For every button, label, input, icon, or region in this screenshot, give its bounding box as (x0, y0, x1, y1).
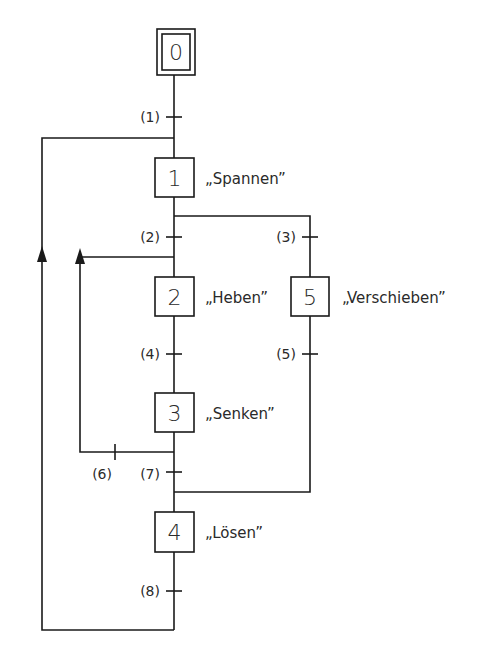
transition-1: (1) (140, 109, 182, 125)
step-label: „Spannen” (205, 170, 286, 188)
transition-5: (5) (276, 346, 318, 362)
transition-3: (3) (276, 229, 318, 245)
svg-text:(7): (7) (140, 466, 160, 482)
step-number: 2 (168, 285, 182, 310)
step-label: „Verschieben” (342, 289, 446, 307)
svg-text:(2): (2) (140, 229, 160, 245)
step-number: 4 (168, 520, 182, 545)
step-0: 0 (157, 29, 195, 75)
step-number: 1 (168, 166, 182, 191)
step-1: 1 „Spannen” (155, 158, 286, 197)
transition-4: (4) (140, 346, 182, 362)
transition-7: (7) (140, 466, 182, 482)
arrow-up-icon (75, 248, 85, 264)
transition-6: (6) (92, 444, 115, 482)
svg-text:(3): (3) (276, 229, 296, 245)
svg-text:(6): (6) (92, 466, 112, 482)
svg-text:(5): (5) (276, 346, 296, 362)
step-5: 5 „Verschieben” (291, 277, 446, 316)
step-3: 3 „Senken” (155, 393, 275, 432)
grafcet-diagram: 0 1 „Spannen” 2 „Heben” 5 „Verschieben” … (0, 0, 478, 655)
svg-text:(4): (4) (140, 346, 160, 362)
step-4: 4 „Lösen” (155, 512, 263, 552)
transition-8: (8) (140, 583, 182, 599)
step-number: 5 (303, 285, 317, 310)
arrow-up-icon (37, 246, 47, 262)
step-number: 0 (169, 40, 183, 65)
step-label: „Lösen” (205, 524, 263, 542)
step-label: „Heben” (205, 289, 268, 307)
step-label: „Senken” (205, 405, 275, 423)
outer-return-line (42, 138, 174, 630)
transition-2: (2) (140, 229, 182, 245)
step-2: 2 „Heben” (155, 277, 268, 316)
svg-text:(1): (1) (140, 109, 160, 125)
step-number: 3 (168, 401, 182, 426)
svg-text:(8): (8) (140, 583, 160, 599)
